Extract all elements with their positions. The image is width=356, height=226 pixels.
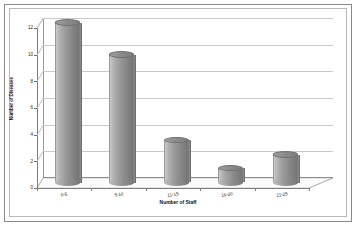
chart-figure: 121086420 0-55-1011-1516-2021-25 Number … — [0, 0, 356, 226]
y-tick-mark — [34, 161, 37, 162]
bar-cylinder — [109, 55, 134, 183]
bar-body — [109, 55, 136, 183]
plot-area: 121086420 0-55-1011-1516-2021-25 Number … — [0, 0, 356, 226]
bar-top-ellipse — [55, 19, 80, 25]
bar-bottom-ellipse — [273, 179, 298, 185]
bar-bottom-ellipse — [164, 179, 189, 185]
x-tick-mark — [255, 188, 256, 191]
y-tick-mark — [34, 135, 37, 136]
bar-top-ellipse — [109, 51, 134, 57]
gridline — [43, 98, 333, 99]
gridline — [43, 71, 333, 72]
floor-right-edge — [309, 178, 333, 188]
bar-top-ellipse — [273, 151, 298, 157]
x-axis-title: Number of Staff — [0, 199, 356, 205]
bar-top-ellipse — [164, 137, 189, 143]
bar-cylinder — [273, 155, 298, 183]
gridline — [43, 18, 333, 19]
y-tick-label: 12 — [19, 25, 33, 30]
bar-body — [55, 23, 82, 183]
x-tick-mark — [309, 188, 310, 191]
y-tick-label: 4 — [19, 132, 33, 137]
bar-cylinder — [55, 23, 80, 183]
x-tick-mark — [200, 188, 201, 191]
bar-bottom-ellipse — [218, 179, 243, 185]
y-tick-label: 6 — [19, 105, 33, 110]
gridline — [43, 45, 333, 46]
bar-cylinder — [218, 168, 243, 183]
x-tick-mark — [146, 188, 147, 191]
x-tick-mark — [91, 188, 92, 191]
bar-top-ellipse — [218, 165, 243, 171]
y-tick-label: 8 — [19, 79, 33, 84]
y-tick-label: 0 — [19, 185, 33, 190]
y-tick-label: 10 — [19, 52, 33, 57]
bar-body — [273, 155, 300, 183]
y-tick-mark — [34, 108, 37, 109]
bar-bottom-ellipse — [109, 179, 134, 185]
bar-body — [164, 140, 191, 183]
x-axis-line — [37, 188, 309, 189]
y-tick-mark — [34, 55, 37, 56]
y-tick-label: 2 — [19, 159, 33, 164]
x-tick-mark — [37, 188, 38, 191]
bar-bottom-ellipse — [55, 179, 80, 185]
bar-cylinder — [164, 140, 189, 183]
y-tick-mark — [34, 81, 37, 82]
gridline — [43, 125, 333, 126]
y-axis-title: Number of Diseases — [9, 64, 14, 134]
y-tick-mark — [34, 28, 37, 29]
